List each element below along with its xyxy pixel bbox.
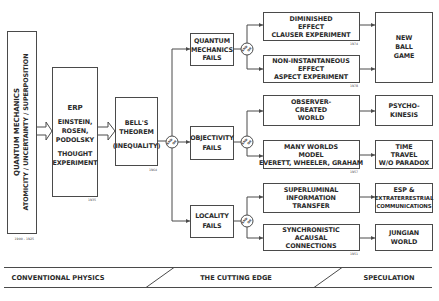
and-or-junction-3: AND OR: [241, 136, 254, 148]
physics-flow-diagram: QUANTUM MECHANICS ATOMICITY / UNCERTAINT…: [0, 0, 439, 301]
synchronistic-connections-box: SYNCHRONISTIC ACAUSAL CONNECTIONS 1951: [264, 225, 360, 257]
speculation-line: TIME: [395, 143, 412, 151]
outcome-line: OBSERVER-: [291, 98, 332, 106]
branch-to-diminished: [247, 25, 263, 43]
erp-line-5: THOUGHT: [58, 150, 93, 158]
qm-title: QUANTUM MECHANICS: [13, 88, 21, 176]
speculation-line: PSYCHO-: [388, 102, 420, 110]
outcome-year: 1978: [350, 84, 358, 88]
observer-created-world-box: OBSERVER- CREATED WORLD: [264, 96, 360, 126]
outcome-line: TRANSFER: [292, 202, 329, 210]
bell-line-3: (INEQUALITY): [113, 142, 161, 150]
bell-line-1: BELL'S: [125, 119, 149, 127]
band-divider-1: [146, 268, 174, 288]
erp-line-3: ROSEN,: [62, 127, 89, 135]
quantum-mechanics-box: QUANTUM MECHANICS ATOMICITY / UNCERTAINT…: [8, 32, 37, 242]
objectivity-fails-box: OBJECTIVITY FAILS: [190, 127, 234, 160]
bells-theorem-box: BELL'S THEOREM (INEQUALITY) 1964: [113, 98, 161, 173]
branch-to-synchronistic: [247, 227, 263, 238]
outcome-line: ASPECT EXPERIMENT: [274, 73, 349, 81]
jungian-world-box: JUNGIAN WORLD: [376, 225, 433, 251]
qm-subtitle: ATOMICITY / UNCERTAINTY / SUPERPOSITION: [22, 54, 30, 211]
and-or-junction-2: AND OR: [241, 43, 254, 55]
outcome-line: CREATED: [295, 106, 327, 114]
outcome-line: CLAUSER EXPERIMENT: [271, 31, 351, 39]
outcome-year: 1957: [350, 170, 358, 174]
branch-to-superluminal: [247, 197, 263, 215]
bell-line-2: THEOREM: [119, 128, 153, 136]
erp-line-2: EINSTEIN,: [58, 118, 93, 126]
outcome-line: INFORMATION: [286, 194, 336, 202]
time-travel-box: TIME TRAVEL W/O PARADOX: [376, 141, 433, 169]
outcome-year: 1974: [350, 42, 358, 46]
speculation-line: GAME: [394, 52, 415, 60]
outcome-line: SUPERLUMINAL: [284, 186, 339, 194]
objectivity-fails-line-1: OBJECTIVITY: [190, 134, 234, 142]
arrow-erp-to-bell: [98, 122, 116, 140]
speculation-line: NEW: [396, 34, 413, 42]
outcome-line: CONNECTIONS: [286, 242, 337, 250]
locality-fails-line-2: FAILS: [202, 222, 222, 230]
band-divider-2: [314, 268, 342, 288]
speculation-line: KINESIS: [390, 111, 418, 119]
speculation-line: TRAVEL: [391, 151, 418, 159]
outcome-line: EFFECT: [298, 65, 325, 73]
erp-line-1: ERP: [67, 104, 82, 112]
new-ball-game-box: NEW BALL GAME: [376, 13, 433, 83]
branch-to-non-instantaneous: [247, 55, 263, 69]
speculation-line: EXTRATERRESTRIAL: [375, 195, 434, 201]
speculation-line: W/O PARADOX: [379, 159, 429, 167]
and-or-junction-4: AND OR: [241, 215, 254, 227]
erp-box: ERP EINSTEIN, ROSEN, PODOLSKY THOUGHT EX…: [52, 68, 98, 203]
branch-to-observer-created: [247, 111, 263, 136]
erp-year: 1935: [88, 198, 96, 202]
speculation-line: COMMUNICATIONS: [376, 203, 431, 209]
outcome-line: ACAUSAL: [295, 234, 328, 242]
qm-year: 1900 - 1925: [15, 237, 34, 241]
band-speculation: SPECULATION: [363, 274, 414, 282]
many-worlds-model-box: MANY WORLDS MODEL EVERETT, WHEELER, GRAH…: [259, 141, 363, 175]
speculation-line: BALL: [395, 43, 413, 51]
diminished-effect-box: DIMINISHED EFFECT CLAUSER EXPERIMENT 197…: [264, 13, 360, 47]
arrow-qm-to-erp: [37, 122, 53, 140]
outcome-line: MANY WORLDS: [284, 143, 338, 151]
outcome-line: EFFECT: [298, 23, 325, 31]
speculation-line: ESP &: [394, 186, 415, 194]
outcome-line: EVERETT, WHEELER, GRAHAM: [259, 159, 363, 167]
erp-line-6: EXPERIMENT: [52, 159, 98, 167]
outcome-line: SYNCHRONISTIC: [282, 226, 340, 234]
qm-fails-line-1: QUANTUM: [194, 37, 230, 45]
speculation-line: WORLD: [391, 238, 417, 246]
qm-fails-line-2: MECHANICS: [191, 46, 233, 54]
psychokinesis-box: PSYCHO- KINESIS: [376, 96, 433, 126]
bell-year: 1964: [149, 168, 157, 172]
locality-fails-box: LOCALITY FAILS: [191, 206, 234, 238]
outcome-line: NON-INSTANTANEOUS: [272, 57, 350, 65]
superluminal-transfer-box: SUPERLUMINAL INFORMATION TRANSFER: [264, 184, 360, 213]
branch-to-qm-fails: [172, 49, 190, 136]
qm-fails-line-3: FAILS: [202, 54, 222, 62]
objectivity-fails-line-2: FAILS: [202, 144, 222, 152]
qm-fails-box: QUANTUM MECHANICS FAILS: [191, 34, 234, 66]
outcome-year: 1951: [350, 252, 358, 256]
speculation-line: JUNGIAN: [388, 229, 419, 237]
outcome-line: WORLD: [298, 114, 324, 122]
esp-extraterrestrial-box: ESP & EXTRATERRESTRIAL COMMUNICATIONS: [375, 184, 434, 213]
band-cutting-edge: THE CUTTING EDGE: [200, 274, 272, 282]
era-band: CONVENTIONAL PHYSICS THE CUTTING EDGE SP…: [4, 268, 432, 288]
outcome-line: DIMINISHED: [290, 15, 333, 23]
locality-fails-line-1: LOCALITY: [195, 212, 229, 220]
and-or-junction-1: AND OR: [166, 136, 179, 148]
non-instantaneous-effect-box: NON-INSTANTANEOUS EFFECT ASPECT EXPERIME…: [264, 56, 360, 89]
erp-line-4: PODOLSKY: [56, 136, 95, 144]
branch-to-locality-fails: [172, 148, 190, 221]
outcome-line: MODEL: [298, 151, 323, 159]
band-conventional-physics: CONVENTIONAL PHYSICS: [12, 274, 105, 282]
